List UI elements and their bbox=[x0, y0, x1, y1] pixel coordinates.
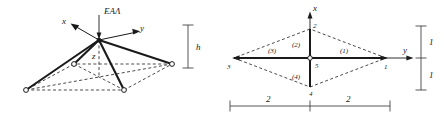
plan-node-5 bbox=[308, 56, 313, 61]
plan-right-dimension bbox=[416, 26, 427, 90]
axis-x-plan-arrowhead bbox=[308, 12, 313, 19]
height-dimension bbox=[183, 25, 194, 68]
plan-node-label-2: 2 bbox=[313, 22, 317, 30]
plan-bottom-dimension bbox=[230, 101, 390, 112]
plan-right-dim-label-lower: 1 bbox=[429, 70, 434, 80]
axis-y-arrowhead bbox=[132, 29, 140, 35]
axis-y-label: y bbox=[139, 23, 144, 33]
axis-y-plan bbox=[310, 56, 414, 61]
plan-bottom-dim-label-right: 2 bbox=[346, 94, 351, 104]
chord-arrowhead-right bbox=[381, 56, 389, 61]
plan-right-dim-label-upper: 1 bbox=[429, 37, 434, 47]
base-edge-front-right bbox=[124, 64, 172, 90]
support-node-left bbox=[24, 88, 29, 93]
plan-edge-4-1 bbox=[310, 58, 386, 87]
engineering-figure: x y z EAΛ h bbox=[0, 0, 444, 119]
axis-y-3d bbox=[99, 29, 140, 40]
plan-node-label-4: 4 bbox=[309, 90, 313, 98]
axis-y-line bbox=[99, 32, 137, 40]
load-label: EAΛ bbox=[103, 6, 121, 16]
height-dim-label: h bbox=[196, 42, 201, 52]
plan-bottom-dim-label-left: 2 bbox=[266, 94, 271, 104]
truss-leg-left bbox=[26, 40, 99, 90]
axis-x-plan-label: x bbox=[312, 3, 317, 13]
space-truss-perspective-panel: x y z EAΛ h bbox=[0, 0, 222, 119]
axis-x-plan bbox=[308, 12, 313, 59]
plan-member-label-3: (3) bbox=[268, 47, 277, 55]
plan-member-label-1: (1) bbox=[340, 47, 349, 55]
support-node-back bbox=[72, 62, 77, 67]
axis-y-plan-arrowhead bbox=[406, 56, 413, 61]
support-node-front bbox=[122, 88, 127, 93]
chord-arrowhead-left bbox=[232, 56, 240, 61]
load-arrow bbox=[97, 15, 102, 40]
axis-z-label: z bbox=[91, 51, 96, 61]
axis-x-3d bbox=[71, 24, 99, 40]
axis-x-arrowhead bbox=[71, 24, 80, 31]
plan-node-label-1: 1 bbox=[384, 63, 388, 71]
plan-node-label-5: 5 bbox=[315, 62, 319, 70]
plan-node-label-3: 3 bbox=[226, 63, 231, 71]
plan-member-label-2: (2) bbox=[292, 41, 301, 49]
plan-member-label-4: (4) bbox=[292, 73, 301, 81]
truss-plan-view-panel: x y 2 4 3 1 5 (1) (2) (3) (4) 1 1 bbox=[222, 0, 444, 119]
support-node-right bbox=[170, 62, 175, 67]
axis-y-plan-label: y bbox=[402, 45, 407, 55]
axis-x-label: x bbox=[61, 16, 66, 26]
